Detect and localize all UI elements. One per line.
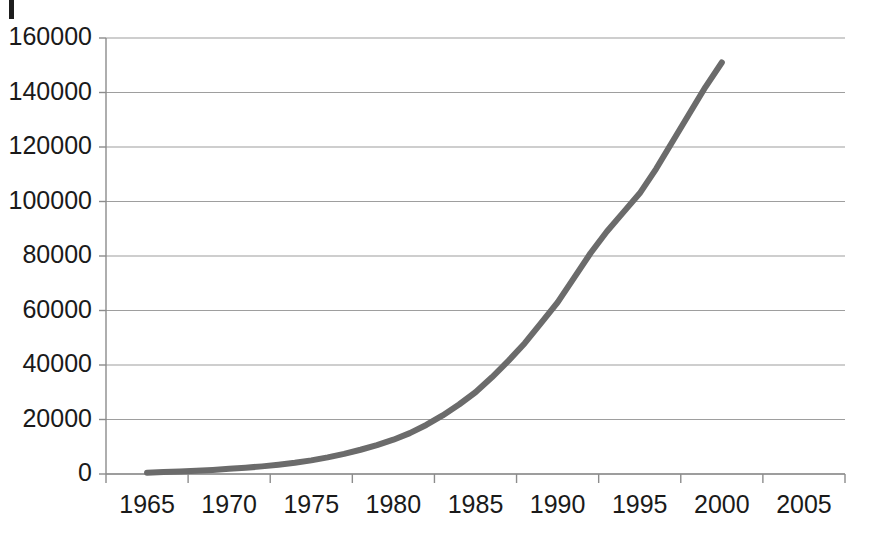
data-line-1 (147, 63, 722, 473)
y-tick-label: 160000 (9, 22, 92, 51)
line-chart: 0200004000060000800001000001200001400001… (0, 0, 869, 535)
y-tick-label: 120000 (9, 131, 92, 160)
chart-canvas (0, 0, 869, 535)
chart-page: 0200004000060000800001000001200001400001… (0, 0, 869, 535)
x-axis-ticks (106, 474, 845, 483)
y-tick-label: 40000 (22, 349, 92, 378)
x-tick-label: 2005 (754, 490, 854, 519)
y-tick-label: 140000 (9, 77, 92, 106)
data-series-group (147, 63, 722, 473)
y-tick-label: 20000 (22, 404, 92, 433)
y-tick-label: 60000 (22, 295, 92, 324)
y-tick-label: 100000 (9, 186, 92, 215)
gridlines (106, 38, 845, 474)
y-axis-ticks (99, 38, 106, 474)
y-tick-label: 80000 (22, 240, 92, 269)
y-tick-label: 0 (78, 458, 92, 487)
